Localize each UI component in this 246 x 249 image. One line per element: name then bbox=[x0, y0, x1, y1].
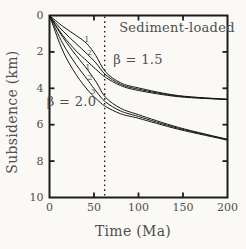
y-tick-label: 0 bbox=[37, 9, 44, 22]
x-tick-label: 0 bbox=[46, 201, 53, 214]
y-tick-label: 10 bbox=[30, 191, 44, 204]
y-tick-label: 8 bbox=[37, 155, 44, 168]
x-tick-label: 150 bbox=[173, 201, 194, 214]
y-tick-label: 2 bbox=[37, 45, 44, 58]
x-tick-label: 200 bbox=[217, 201, 238, 214]
curve-number-labels: 12123 bbox=[84, 35, 95, 96]
curve-number-beta-2.0-2: 2 bbox=[87, 73, 92, 82]
x-tick-label: 50 bbox=[87, 201, 101, 214]
curve-number-beta-1.5-2: 2 bbox=[87, 48, 92, 57]
x-tick-label: 100 bbox=[128, 201, 149, 214]
x-axis-title: Time (Ma) bbox=[95, 223, 171, 239]
region-label: Sediment-loaded bbox=[119, 20, 235, 35]
curve-number-beta-1.5-1: 1 bbox=[84, 35, 89, 44]
chart-canvas: 0501001502000246810 12123 Sediment-loade… bbox=[0, 0, 246, 249]
beta-1.5-label: β = 1.5 bbox=[113, 52, 162, 67]
y-axis-title: Subsidence (km) bbox=[4, 50, 20, 173]
y-tick-label: 4 bbox=[37, 82, 44, 95]
beta-2.0-label: β = 2.0 bbox=[47, 94, 96, 109]
subsidence-chart: 0501001502000246810 12123 Sediment-loade… bbox=[0, 0, 246, 249]
y-tick-label: 6 bbox=[37, 118, 44, 131]
curve-number-beta-2.0-1: 1 bbox=[85, 63, 90, 72]
